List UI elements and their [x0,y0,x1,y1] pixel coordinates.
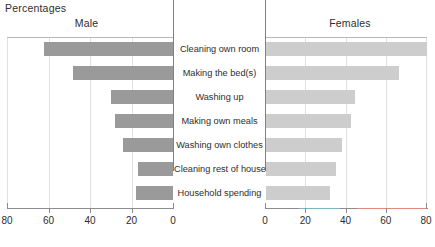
male-bar [123,138,173,152]
male-bar [44,42,173,56]
axis-tick [265,203,266,209]
axis-tick-label: 80 [1,215,12,226]
axis-tick-label: 80 [420,215,431,226]
axis-tick-label: 0 [262,215,268,226]
category-label-group: Cleaning own roomMaking the bed(s)Washin… [174,37,265,208]
axis-tick [173,203,174,209]
category-label: Household spending [174,186,265,200]
category-label: Washing own clothes [174,138,265,152]
female-bar [266,66,399,80]
axis-tick-label: 0 [170,215,176,226]
axis-tick [426,203,427,209]
axis-tick [386,208,387,213]
category-label: Making own meals [174,114,265,128]
female-bar [266,114,351,128]
axis-tick [49,208,50,213]
axis-tick [346,208,347,213]
female-bar [266,42,427,56]
female-bar [266,138,342,152]
category-label: Cleaning own room [174,42,265,56]
male-bar [136,186,173,200]
axis-tick-label: 40 [84,215,95,226]
male-bar [138,162,173,176]
axis-tick-label: 40 [340,215,351,226]
category-label: Making the bed(s) [174,66,265,80]
axis-tick-label: 60 [380,215,391,226]
female-bar [266,90,355,104]
male-bar [73,66,173,80]
axis-accent-red [357,208,427,209]
male-bar [111,90,173,104]
axis-tick-label: 60 [43,215,54,226]
axis-tick [90,208,91,213]
category-label: Washing up [174,90,265,104]
male-bar-group [7,37,173,208]
female-bar-group [266,37,427,208]
category-label: Cleaning rest of house [174,162,265,176]
back-to-back-bar-chart: Percentages Male Females Cleaning own ro… [0,0,435,247]
axis-tick [7,203,8,209]
male-bar [115,114,173,128]
axis-tick-label: 20 [126,215,137,226]
axis-tick [305,208,306,213]
axis-tick [132,208,133,213]
chart-title: Percentages [5,2,66,14]
female-panel-title: Females [265,17,435,29]
female-bar [266,186,330,200]
female-bar [266,162,336,176]
axis-tick-label: 20 [300,215,311,226]
male-panel-title: Male [0,17,173,29]
